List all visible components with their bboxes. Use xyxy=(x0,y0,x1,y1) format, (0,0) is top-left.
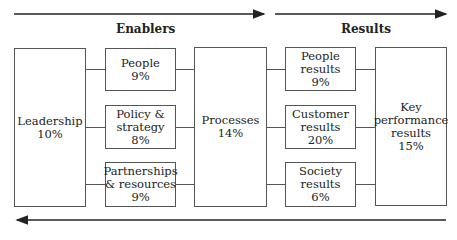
people-results-label: People results 9% xyxy=(301,50,341,89)
connector-leadership-partnerships xyxy=(85,184,105,185)
connector-processes-people-results xyxy=(266,69,286,70)
people-results-box: People results 9% xyxy=(285,47,356,91)
results-heading: Results xyxy=(341,22,391,36)
partnerships-resources-box: Partnerships & resources 9% xyxy=(105,162,176,207)
policy-strategy-box: Policy & strategy 8% xyxy=(105,105,176,149)
connector-people-processes xyxy=(175,69,195,70)
connector-policy-processes xyxy=(175,127,195,128)
key-performance-results-box: Key performance results 15% xyxy=(375,47,447,206)
key-performance-results-label: Key performance results 15% xyxy=(374,101,449,153)
connector-leadership-people xyxy=(85,69,105,70)
connector-partnerships-processes xyxy=(175,184,195,185)
connector-processes-society-results xyxy=(266,184,286,185)
customer-results-label: Customer results 20% xyxy=(292,108,349,147)
leadership-label: Leadership 10% xyxy=(17,115,82,141)
processes-label: Processes 14% xyxy=(202,114,260,140)
leadership-box: Leadership 10% xyxy=(14,48,86,207)
people-label: People 9% xyxy=(121,57,160,83)
people-box: People 9% xyxy=(105,48,176,91)
processes-box: Processes 14% xyxy=(194,47,267,207)
society-results-label: Society results 6% xyxy=(299,165,342,204)
customer-results-box: Customer results 20% xyxy=(285,105,356,149)
connector-people-results-kpr xyxy=(355,69,376,70)
partnerships-resources-label: Partnerships & resources 9% xyxy=(103,165,177,204)
connector-processes-customer-results xyxy=(266,127,286,128)
connector-society-results-kpr xyxy=(355,184,376,185)
connector-leadership-policy xyxy=(85,127,105,128)
society-results-box: Society results 6% xyxy=(285,162,356,207)
enablers-heading: Enablers xyxy=(116,22,175,36)
policy-strategy-label: Policy & strategy 8% xyxy=(116,108,164,147)
